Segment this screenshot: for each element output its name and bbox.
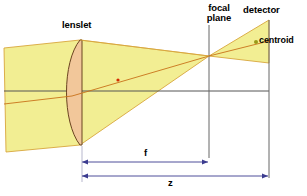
dimension-arrowhead-f-right bbox=[202, 160, 208, 165]
converging-beam bbox=[80, 40, 209, 145]
dimension-arrowhead-z-left bbox=[82, 174, 88, 179]
label-focal-plane-line2: plane bbox=[207, 12, 231, 23]
label-focal-plane: focal plane bbox=[196, 3, 242, 23]
label-detector: detector bbox=[243, 5, 280, 15]
label-distance-z: z bbox=[168, 178, 173, 188]
label-lenslet: lenslet bbox=[62, 20, 91, 30]
dimension-arrowhead-f-left bbox=[82, 160, 88, 165]
label-centroid: centroid bbox=[259, 36, 294, 45]
optical-diagram: lenslet focal plane detector centroid f … bbox=[0, 0, 307, 196]
centroid-dot bbox=[254, 40, 258, 44]
label-focal-length: f bbox=[144, 148, 147, 158]
dimension-arrowhead-z-right bbox=[262, 174, 268, 179]
optics-drawing bbox=[0, 0, 307, 196]
focus-dot bbox=[116, 78, 119, 81]
